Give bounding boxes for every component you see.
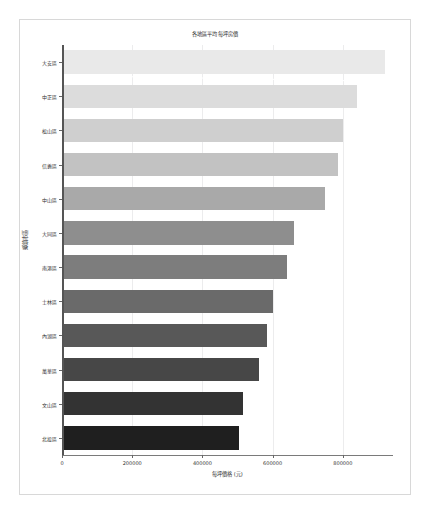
y-tick-label-中正區: 中正區	[42, 93, 57, 100]
bar-row[interactable]	[62, 119, 392, 142]
bar-row[interactable]	[62, 221, 392, 244]
y-axis-spine	[62, 45, 64, 455]
x-tick-label-0: 0	[60, 460, 63, 466]
x-tick-mark-400000	[202, 455, 203, 458]
y-tick-mark	[59, 370, 62, 371]
bar-row[interactable]	[62, 392, 392, 415]
bar-內湖區[interactable]	[62, 324, 267, 347]
chart-title: 各地區平均每坪房價	[20, 30, 410, 37]
bar-萬華區[interactable]	[62, 358, 259, 381]
x-axis-label: 每坪價格 (元)	[62, 470, 393, 477]
bar-row[interactable]	[62, 187, 392, 210]
bar-series	[62, 45, 392, 455]
bar-信義區[interactable]	[62, 153, 338, 176]
y-tick-mark	[59, 267, 62, 268]
x-tick-mark-200000	[132, 455, 133, 458]
bar-大同區[interactable]	[62, 221, 294, 244]
y-tick-mark	[59, 335, 62, 336]
y-tick-mark	[59, 233, 62, 234]
x-tick-label-200000: 200000	[123, 460, 142, 466]
y-tick-label-信義區: 信義區	[42, 161, 57, 168]
bar-row[interactable]	[62, 426, 392, 449]
bar-文山區[interactable]	[62, 392, 243, 415]
bar-row[interactable]	[62, 324, 392, 347]
y-tick-label-萬華區: 萬華區	[42, 366, 57, 373]
bar-row[interactable]	[62, 153, 392, 176]
y-tick-label-北投區: 北投區	[42, 434, 57, 441]
bar-row[interactable]	[62, 85, 392, 108]
y-tick-label-中山區: 中山區	[42, 195, 57, 202]
y-tick-mark	[59, 199, 62, 200]
bar-北投區[interactable]	[62, 426, 239, 449]
y-axis-tick-labels: 大安區中正區松山區信義區中山區大同區南港區士林區內湖區萬華區文山區北投區	[20, 45, 57, 455]
bar-row[interactable]	[62, 50, 392, 73]
bar-row[interactable]	[62, 255, 392, 278]
bar-中山區[interactable]	[62, 187, 325, 210]
y-tick-mark	[59, 301, 62, 302]
figure-frame: 各地區平均每坪房價 大安區中正區松山區信義區中山區大同區南港區士林區內湖區萬華區…	[19, 19, 411, 495]
y-tick-mark	[59, 404, 62, 405]
y-tick-mark	[59, 438, 62, 439]
bar-row[interactable]	[62, 358, 392, 381]
y-tick-mark	[59, 130, 62, 131]
y-tick-label-大安區: 大安區	[42, 59, 57, 66]
y-axis-label: 鄉鎮市區	[21, 230, 28, 250]
y-tick-mark	[59, 96, 62, 97]
y-tick-mark	[59, 62, 62, 63]
y-tick-mark	[59, 165, 62, 166]
bar-松山區[interactable]	[62, 119, 343, 142]
x-tick-mark-0	[62, 455, 63, 458]
x-tick-label-400000: 400000	[193, 460, 212, 466]
bar-士林區[interactable]	[62, 290, 273, 313]
bar-中正區[interactable]	[62, 85, 357, 108]
x-tick-mark-800000	[343, 455, 344, 458]
y-tick-label-士林區: 士林區	[42, 298, 57, 305]
bar-大安區[interactable]	[62, 50, 385, 73]
y-tick-label-大同區: 大同區	[42, 229, 57, 236]
plot-area	[62, 45, 392, 455]
y-tick-label-文山區: 文山區	[42, 400, 57, 407]
bar-南港區[interactable]	[62, 255, 287, 278]
x-tick-label-600000: 600000	[263, 460, 282, 466]
x-tick-mark-600000	[273, 455, 274, 458]
x-tick-label-800000: 800000	[333, 460, 352, 466]
y-tick-label-松山區: 松山區	[42, 127, 57, 134]
y-tick-label-內湖區: 內湖區	[42, 332, 57, 339]
bar-row[interactable]	[62, 290, 392, 313]
y-tick-label-南港區: 南港區	[42, 264, 57, 271]
